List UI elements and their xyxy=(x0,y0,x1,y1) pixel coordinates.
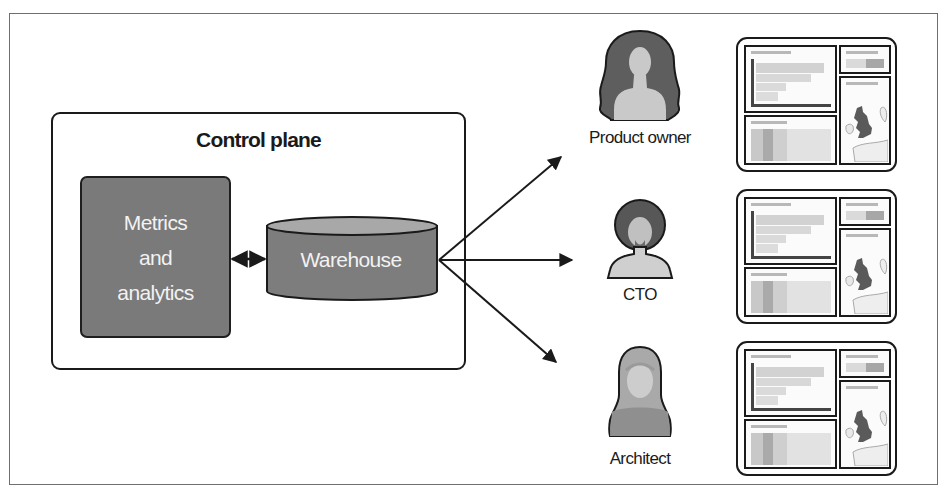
dashboard-icon xyxy=(736,189,897,324)
dashboard-icon xyxy=(736,37,897,172)
bar-chart-panel xyxy=(744,197,837,265)
bar-chart-panel xyxy=(744,45,837,113)
arrow-to-product-owner xyxy=(439,157,561,260)
map-panel xyxy=(839,380,891,469)
heatmap-panel xyxy=(744,115,837,165)
kpi-panel xyxy=(839,197,891,226)
woman-long-hair-avatar-icon xyxy=(600,31,680,120)
heatmap-panel xyxy=(744,419,837,469)
warehouse-label: Warehouse xyxy=(265,248,437,272)
map-panel xyxy=(839,228,891,317)
persona-label: Architect xyxy=(570,449,710,469)
kpi-panel xyxy=(839,349,891,378)
heatmap-panel xyxy=(744,267,837,317)
uk-map-icon xyxy=(841,230,888,314)
dashboard-icon xyxy=(736,341,897,476)
persona-label: CTO xyxy=(570,285,710,305)
uk-map-icon xyxy=(841,382,888,466)
map-panel xyxy=(839,76,891,165)
arrow-to-architect xyxy=(439,260,556,362)
uk-map-icon xyxy=(841,78,888,162)
bar-chart-panel xyxy=(744,349,837,417)
man-afro-beard-avatar-icon xyxy=(608,200,672,278)
woman-hijab-avatar-icon xyxy=(609,347,671,436)
fan-out-arrows xyxy=(439,157,572,362)
kpi-panel xyxy=(839,45,891,74)
persona-label: Product owner xyxy=(570,128,710,148)
